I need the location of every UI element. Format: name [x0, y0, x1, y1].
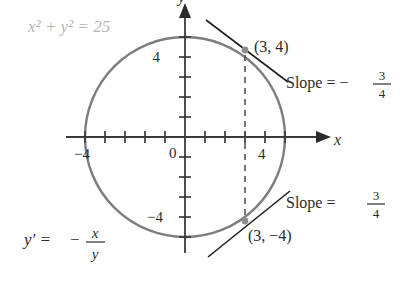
slope-annotation-upper: Slope = − 3 4	[286, 68, 391, 101]
derivative-lhs: y′ =	[22, 230, 51, 249]
point-marker-lower	[242, 218, 249, 225]
origin-label: 0	[169, 145, 177, 161]
slope-lower-numerator: 3	[373, 188, 380, 203]
x-axis-arrow-icon	[316, 131, 331, 143]
y-axis-arrow-icon	[179, 3, 191, 18]
x-axis-label: x	[333, 131, 341, 148]
point-marker-upper	[242, 47, 249, 54]
derivative-denominator: y	[90, 246, 99, 262]
point-label-upper: (3, 4)	[254, 38, 289, 56]
point-label-lower: (3, −4)	[248, 227, 292, 245]
x-tick-label-positive-4: 4	[258, 146, 266, 162]
tangent-line-lower	[208, 191, 290, 257]
slope-annotation-lower: Slope = 3 4	[286, 188, 385, 221]
slope-upper-numerator: 3	[379, 68, 386, 83]
x-tick-label-negative-4: −4	[74, 146, 90, 162]
implicit-differentiation-figure: x² + y² = 25 x y 0 −4 4 4 −4 (3, 4) (3, …	[0, 0, 409, 287]
slope-lower-text: Slope =	[286, 194, 335, 212]
y-tick-label-negative-4: −4	[147, 209, 163, 225]
slope-upper-text: Slope = −	[286, 74, 349, 92]
derivative-minus-sign: −	[70, 230, 80, 249]
slope-lower-denominator: 4	[373, 206, 380, 221]
circle-equation-label: x² + y² = 25	[27, 17, 110, 36]
slope-upper-denominator: 4	[379, 86, 386, 101]
y-tick-label-positive-4: 4	[153, 49, 161, 65]
derivative-numerator: x	[91, 225, 99, 241]
derivative-equation-label: y′ = − x y	[22, 225, 105, 262]
